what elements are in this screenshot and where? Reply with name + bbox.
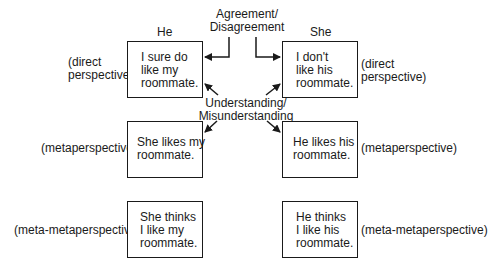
understanding-arrow-to-she-direct <box>266 84 280 95</box>
agreement-arrow-to-he <box>205 37 229 57</box>
understanding-arrow-to-he-meta <box>205 121 217 132</box>
understanding-arrow-to-she-meta <box>267 121 280 132</box>
agreement-arrow-to-she <box>256 37 280 57</box>
understanding-arrow-to-he-direct <box>205 84 218 95</box>
